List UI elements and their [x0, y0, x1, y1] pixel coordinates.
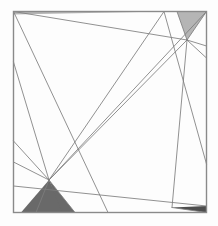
line-arrangement-figure	[0, 0, 218, 226]
figure-container	[0, 0, 218, 226]
